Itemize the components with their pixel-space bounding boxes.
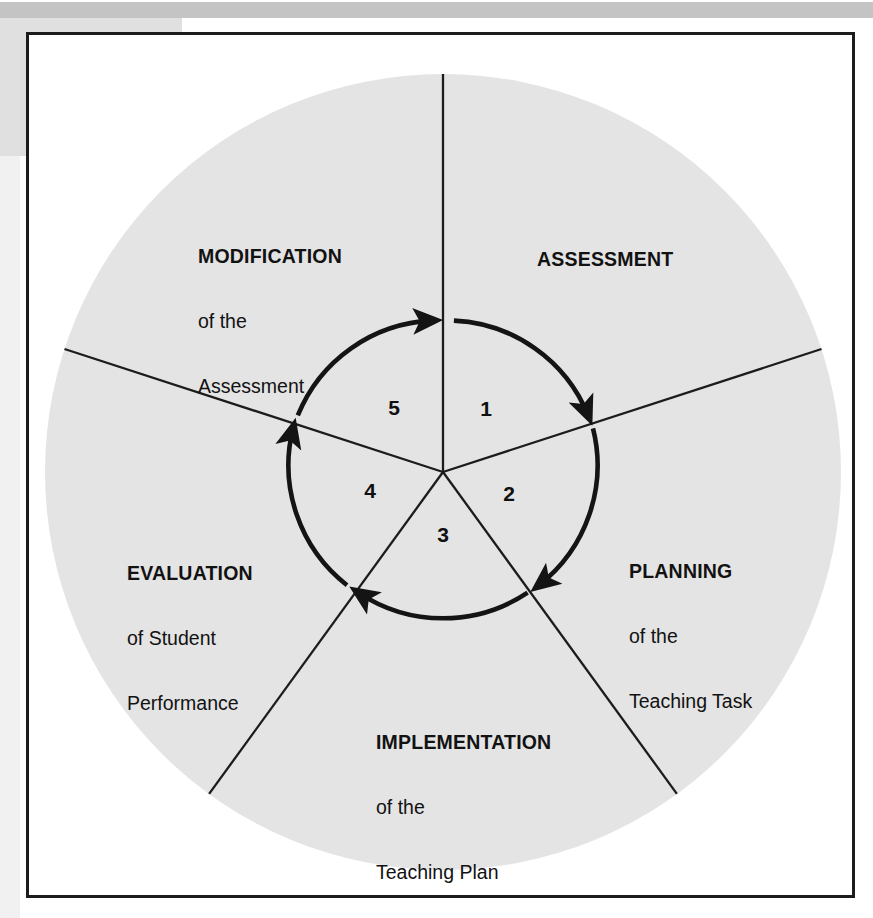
step-number-2: 2 <box>494 482 524 506</box>
sector-title-implementation: IMPLEMENTATION <box>376 730 551 755</box>
sector-line3-planning: Teaching Task <box>629 689 752 714</box>
page-canvas: ASSESSMENT PLANNING of the Teaching Task… <box>0 0 873 918</box>
sector-label-planning: PLANNING of the Teaching Task <box>629 519 752 754</box>
sector-title-planning: PLANNING <box>629 559 752 584</box>
step-number-4: 4 <box>355 479 385 503</box>
sector-title-evaluation: EVALUATION <box>127 561 253 586</box>
sector-line3-modification: Assessment <box>198 374 342 399</box>
sector-title-modification: MODIFICATION <box>198 244 342 269</box>
step-number-5: 5 <box>379 396 409 420</box>
sector-line3-implementation: Teaching Plan <box>376 860 551 885</box>
sector-line2-implementation: of the <box>376 795 551 820</box>
sector-line2-modification: of the <box>198 309 342 334</box>
sector-line2-evaluation: of Student <box>127 626 253 651</box>
sector-title-assessment: ASSESSMENT <box>537 247 673 272</box>
sector-label-assessment: ASSESSMENT <box>537 207 673 312</box>
sector-line3-evaluation: Performance <box>127 691 253 716</box>
sector-label-implementation: IMPLEMENTATION of the Teaching Plan <box>376 690 551 918</box>
step-number-3: 3 <box>428 523 458 547</box>
sector-label-modification: MODIFICATION of the Assessment <box>198 204 342 439</box>
sector-line2-planning: of the <box>629 624 752 649</box>
step-number-1: 1 <box>471 397 501 421</box>
sector-label-evaluation: EVALUATION of Student Performance <box>127 521 253 756</box>
